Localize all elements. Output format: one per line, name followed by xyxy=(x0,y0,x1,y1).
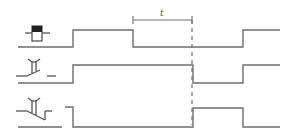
delayed-normally-closed-contact-icon xyxy=(16,98,52,120)
timing-diagram: t xyxy=(0,0,296,140)
no-contact-waveform xyxy=(18,65,280,83)
delayed-normally-open-contact-icon xyxy=(16,59,56,76)
relay-coil-icon xyxy=(25,26,50,41)
dimension-t: t xyxy=(133,8,192,24)
coil-waveform xyxy=(18,30,280,47)
nc-contact-waveform xyxy=(65,107,280,127)
dimension-label: t xyxy=(160,8,164,18)
